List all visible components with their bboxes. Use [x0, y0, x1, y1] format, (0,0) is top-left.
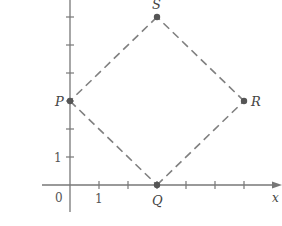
edge-PQ — [70, 101, 157, 185]
point-S — [154, 14, 160, 20]
x-axis-label: x — [272, 191, 279, 205]
point-label-Q: Q — [152, 193, 163, 208]
coordinate-plane: PQRSx011 — [0, 0, 282, 226]
x-tick-label-1: 1 — [95, 192, 103, 206]
y-tick-label-1: 1 — [54, 151, 62, 165]
point-Q — [154, 182, 160, 188]
point-label-S: S — [152, 0, 161, 12]
labels: PQRSx011 — [54, 0, 279, 208]
square-edges — [70, 17, 244, 185]
x-axis-arrow-icon — [272, 182, 282, 189]
vertices — [67, 14, 247, 188]
point-label-P: P — [54, 94, 64, 109]
origin-label: 0 — [55, 191, 63, 205]
edge-SP — [70, 17, 157, 101]
edge-QR — [157, 101, 244, 185]
point-P — [67, 98, 73, 104]
point-R — [241, 98, 247, 104]
point-label-R: R — [250, 94, 261, 109]
edge-RS — [157, 17, 244, 101]
